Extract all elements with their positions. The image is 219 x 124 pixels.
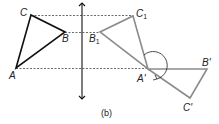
label-a-prime: A' bbox=[136, 73, 147, 84]
label-a: A bbox=[8, 70, 16, 81]
label-b1: B1 bbox=[89, 33, 100, 45]
label-c1: C1 bbox=[136, 8, 147, 20]
label-c: C bbox=[20, 7, 28, 18]
triangle-abc bbox=[16, 15, 65, 68]
figure-caption: (b) bbox=[101, 108, 112, 118]
triangle-rotated bbox=[148, 69, 207, 98]
label-b: B bbox=[62, 33, 69, 44]
label-c-prime: C' bbox=[183, 102, 193, 113]
mirror-axis bbox=[79, 3, 85, 99]
triangle-reflected bbox=[100, 16, 148, 69]
label-b-prime: B' bbox=[202, 57, 212, 68]
transformation-diagram: C B A B1 C1 A' B' C' (b) bbox=[0, 0, 219, 124]
